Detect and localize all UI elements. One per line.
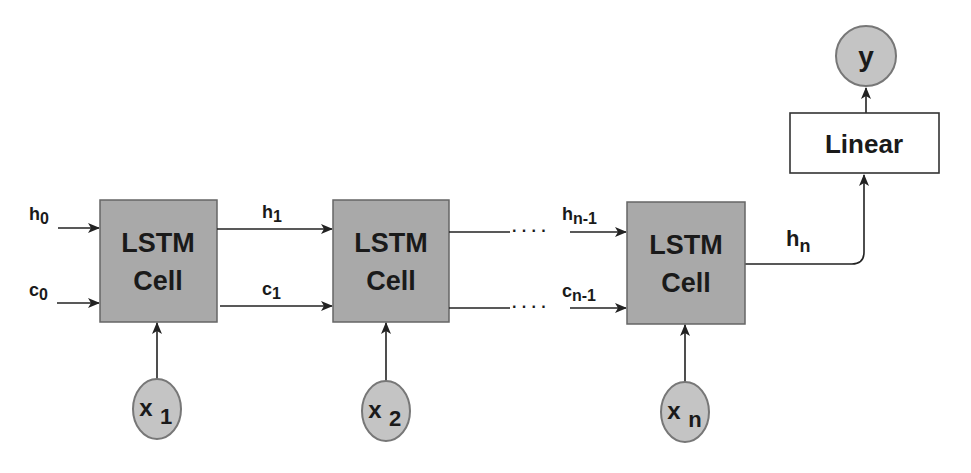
c0-label: c0 [29, 280, 48, 303]
input-node-x1: x 1 [133, 379, 181, 439]
c1-label: c1 [262, 279, 281, 302]
cn1-label: cn-1 [562, 281, 596, 304]
svg-text:n: n [688, 407, 701, 432]
svg-text:LSTM: LSTM [649, 230, 723, 260]
h-ellipsis: · · · · [512, 222, 547, 239]
c-ellipsis: · · · · [512, 298, 547, 315]
svg-text:x: x [139, 394, 153, 421]
h1-label: h1 [262, 202, 282, 225]
hn-label: hn [786, 226, 810, 256]
input-node-x2: x 2 [362, 381, 410, 441]
lstm-cell-1: LSTM Cell [100, 200, 217, 322]
lstm-cell-n: LSTM Cell [627, 202, 745, 324]
linear-label: Linear [825, 129, 903, 159]
svg-text:1: 1 [160, 404, 172, 429]
svg-text:LSTM: LSTM [121, 228, 195, 258]
svg-text:Cell: Cell [133, 266, 183, 296]
svg-text:2: 2 [389, 406, 401, 431]
lstm-diagram: y Linear hn h0 c0 LSTM Cell h1 c1 LSTM C… [0, 0, 971, 473]
output-node: y [836, 26, 896, 86]
input-node-xn: x n [661, 382, 709, 442]
svg-text:x: x [667, 397, 681, 424]
svg-text:x: x [368, 396, 382, 423]
linear-layer-box: Linear [790, 113, 939, 173]
h0-label: h0 [29, 204, 49, 227]
output-label: y [858, 41, 874, 72]
svg-text:Cell: Cell [366, 266, 416, 296]
hn1-label: hn-1 [562, 204, 597, 227]
svg-text:Cell: Cell [661, 268, 711, 298]
svg-text:LSTM: LSTM [354, 228, 428, 258]
lstm-cell-2: LSTM Cell [333, 200, 449, 322]
